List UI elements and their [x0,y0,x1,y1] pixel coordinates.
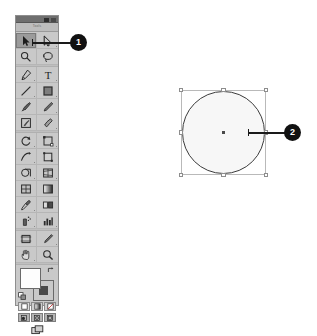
artboard-icon [20,233,32,245]
eyedropper-icon [20,199,32,211]
flyout-indicator-icon[interactable] [34,178,35,179]
flyout-indicator-icon[interactable] [56,146,57,147]
magnifier-icon [42,249,54,261]
drawing-mode-inside[interactable] [44,313,56,322]
handle-bottom-left[interactable] [179,173,183,177]
handle-top-right[interactable] [264,88,268,92]
tool-row [16,133,58,149]
tool-column-graph-tool[interactable] [37,213,58,229]
tool-row [16,49,58,65]
gradient-swatch-icon [34,303,41,310]
panel-titlebar[interactable] [16,16,58,23]
perspective-grid-icon [42,167,54,179]
paint-mode-color[interactable] [18,302,30,311]
drawing-mode-behind[interactable] [31,313,43,322]
blend-icon [42,199,54,211]
drawing-mode-normal[interactable] [18,313,30,322]
tool-zoom-tool[interactable] [37,247,58,263]
screen-mode-icon[interactable] [31,325,44,335]
paint-mode-gradient[interactable] [31,302,43,311]
handle-bottom-center[interactable] [221,173,225,177]
tool-selection-tool[interactable] [16,33,37,49]
column-graph-icon [42,215,54,227]
flyout-indicator-icon[interactable] [56,244,57,245]
free-transform-icon [42,151,54,163]
flyout-indicator-icon[interactable] [34,80,35,81]
tool-row [16,83,58,99]
shape-builder-icon [20,167,32,179]
tool-eyedropper-tool[interactable] [16,197,37,213]
tool-magic-wand-tool[interactable] [16,49,37,65]
tool-hand-tool[interactable] [16,247,37,263]
flyout-indicator-icon[interactable] [56,80,57,81]
tool-symbol-sprayer-tool[interactable] [16,213,37,229]
scale-icon [42,135,54,147]
close-icon[interactable] [51,18,56,22]
tool-shape-builder-tool[interactable] [16,165,37,181]
tool-pencil-tool[interactable] [37,99,58,115]
tool-type-tool[interactable]: T [37,67,58,83]
flyout-indicator-icon[interactable] [56,112,57,113]
tool-row [16,197,58,213]
none-slash-icon [47,303,54,310]
pencil-icon [42,101,54,113]
callout-1-leader [32,42,72,44]
tool-row [16,149,58,165]
flyout-indicator-icon[interactable] [34,210,35,211]
tool-row [16,99,58,115]
flyout-indicator-icon[interactable] [34,226,35,227]
tool-mesh-tool[interactable] [16,181,37,197]
handle-bottom-right[interactable] [264,173,268,177]
tool-width-tool[interactable] [16,149,37,165]
handle-middle-left[interactable] [179,130,183,134]
tool-row [16,33,58,49]
mesh-icon [20,183,32,195]
panel-tab[interactable]: Tools [16,23,58,32]
flyout-indicator-icon[interactable] [34,260,35,261]
lasso-icon [42,51,54,63]
flyout-indicator-icon[interactable] [56,178,57,179]
hand-icon [20,249,32,261]
tool-gradient-tool[interactable] [37,181,58,197]
default-fill-stroke-icon[interactable] [18,292,26,300]
tool-direct-selection-tool[interactable] [37,33,58,49]
flyout-indicator-icon[interactable] [34,96,35,97]
flyout-indicator-icon[interactable] [56,46,57,47]
type-icon: T [42,69,54,81]
tool-blend-tool[interactable] [37,197,58,213]
width-warp-icon [20,151,32,163]
paint-mode-none[interactable] [44,302,56,311]
flyout-indicator-icon[interactable] [56,128,57,129]
tool-slice-tool[interactable] [37,231,58,247]
tool-free-transform-tool[interactable] [37,149,58,165]
tool-row [16,165,58,181]
tool-artboard-tool[interactable] [16,231,37,247]
tool-rotate-tool[interactable] [16,133,37,149]
rectangle-icon [42,85,54,97]
flyout-indicator-icon[interactable] [34,146,35,147]
handle-top-center[interactable] [221,88,225,92]
handle-top-left[interactable] [179,88,183,92]
collapse-icon[interactable] [44,18,49,22]
draw-normal-icon [21,315,27,321]
fill-swatch[interactable] [20,268,41,289]
tool-paintbrush-tool[interactable] [16,99,37,115]
flyout-indicator-icon[interactable] [56,96,57,97]
tool-rectangle-tool[interactable] [37,83,58,99]
flyout-indicator-icon[interactable] [34,162,35,163]
line-segment-icon [20,85,32,97]
tool-scale-tool[interactable] [37,133,58,149]
tool-eraser-tool[interactable] [37,115,58,131]
tool-lasso-tool[interactable] [37,49,58,65]
direct-selection-arrow-icon [42,35,53,47]
flyout-indicator-icon[interactable] [56,226,57,227]
tool-line-segment-tool[interactable] [16,83,37,99]
screen-mode-row [16,323,58,336]
tool-blob-brush-tool[interactable] [16,115,37,131]
tool-perspective-grid-tool[interactable] [37,165,58,181]
tool-row [16,181,58,197]
tool-pen-tool[interactable] [16,67,37,83]
solid-color-icon [21,303,28,310]
swap-fill-stroke-icon[interactable] [47,266,55,274]
